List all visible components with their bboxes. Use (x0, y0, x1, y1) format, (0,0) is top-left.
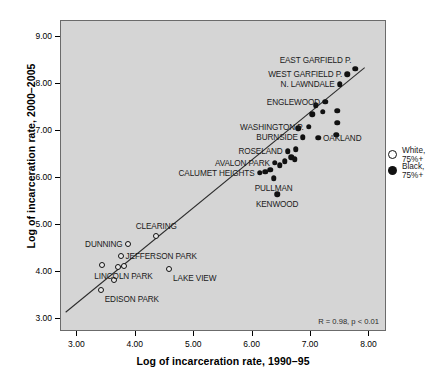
data-point (277, 162, 283, 168)
point-label: PULLMAN (255, 184, 293, 193)
y-tick-mark (55, 36, 60, 37)
y-tick-mark (55, 177, 60, 178)
plot-area: CLEARINGDUNNINGJEFFERSON PARKLAKE VIEWLI… (60, 20, 386, 331)
point-label: DUNNING (85, 239, 123, 248)
y-tick-label: 3.00 (22, 313, 52, 323)
point-label: ROSELAND (238, 147, 282, 156)
x-tick-label: 7.00 (302, 339, 319, 349)
x-tick-mark (368, 331, 369, 336)
x-tick-label: 4.00 (127, 339, 144, 349)
data-point (121, 263, 127, 269)
y-tick-label: 7.00 (22, 125, 52, 135)
data-point (345, 71, 351, 77)
point-label: WEST GARFIELD P. (268, 70, 342, 79)
data-point (115, 264, 121, 270)
data-point (263, 169, 269, 175)
scatter-plot-figure: Log of incarceration rate, 2000–2005 Log… (0, 0, 436, 387)
data-point (335, 108, 341, 114)
y-axis-title: Log of incarceration rate, 2000–2005 (25, 41, 37, 271)
data-point (353, 66, 359, 72)
data-point (292, 157, 298, 163)
data-point (320, 109, 326, 115)
point-label: JEFFERSON PARK (126, 252, 197, 261)
data-point (153, 233, 159, 239)
data-point (125, 241, 131, 247)
y-tick-mark (55, 224, 60, 225)
point-label: N. LAWNDALE (281, 80, 335, 89)
legend-item: White, 75%+ (388, 148, 436, 161)
data-point (99, 262, 105, 268)
x-tick-mark (310, 331, 311, 336)
y-tick-label: 4.00 (22, 266, 52, 276)
point-label: AVALON PARK (215, 158, 270, 167)
point-label: ENGLEWOOD (267, 97, 320, 106)
point-label: BURNSIDE (256, 133, 298, 142)
data-point (271, 175, 277, 181)
point-label: CLEARING (136, 221, 177, 230)
data-point (293, 146, 299, 152)
x-axis-title: Log of incarceration rate, 1990–95 (60, 355, 386, 367)
point-label: WASHINGTON P. (240, 122, 304, 131)
y-tick-mark (55, 318, 60, 319)
point-label: EDISON PARK (105, 294, 159, 303)
x-tick-mark (135, 331, 136, 336)
x-tick-label: 8.00 (360, 339, 377, 349)
point-label: OAKLAND (323, 133, 361, 142)
legend-item: Black, 75%+ (388, 164, 436, 177)
data-point (118, 253, 124, 259)
y-tick-mark (55, 83, 60, 84)
point-label: KENWOOD (256, 200, 299, 209)
y-tick-mark (55, 271, 60, 272)
x-tick-mark (76, 331, 77, 336)
data-point (337, 82, 343, 88)
x-tick-mark (193, 331, 194, 336)
data-point (300, 135, 306, 141)
y-tick-label: 5.00 (22, 219, 52, 229)
data-point (335, 120, 341, 126)
data-point (309, 112, 315, 118)
data-point (98, 287, 104, 293)
data-point (322, 99, 328, 105)
x-tick-mark (252, 331, 253, 336)
point-label: EAST GARFIELD P. (280, 55, 352, 64)
plot-wrapper: CLEARINGDUNNINGJEFFERSON PARKLAKE VIEWLI… (60, 20, 386, 331)
data-point (285, 149, 291, 155)
y-tick-label: 9.00 (22, 31, 52, 41)
data-point (282, 159, 288, 165)
y-tick-label: 8.00 (22, 78, 52, 88)
correlation-annotation: R = 0.98, p < 0.01 (318, 317, 379, 326)
open-circle-icon (388, 150, 397, 159)
y-tick-mark (55, 130, 60, 131)
point-label: LAKE VIEW (173, 274, 216, 283)
x-tick-label: 3.00 (68, 339, 85, 349)
x-tick-label: 5.00 (185, 339, 202, 349)
x-tick-label: 6.00 (243, 339, 260, 349)
data-point (257, 170, 263, 176)
legend-label: Black, 75%+ (402, 162, 436, 180)
point-label: CALUMET HEIGHTS (178, 168, 254, 177)
y-tick-label: 6.00 (22, 172, 52, 182)
filled-circle-icon (388, 166, 397, 175)
data-point (315, 135, 321, 141)
point-label: LINCOLN PARK (94, 272, 152, 281)
data-point (306, 124, 312, 130)
chart-legend: White, 75%+Black, 75%+ (388, 148, 436, 180)
data-point (166, 266, 172, 272)
